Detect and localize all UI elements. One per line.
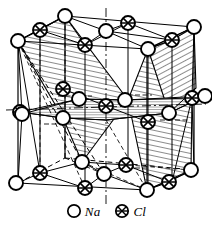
atom-na — [141, 42, 155, 56]
atom-na — [187, 20, 201, 34]
legend-entry-na: Na — [66, 203, 101, 219]
legend-entry-cl: Cl — [114, 203, 146, 219]
open-circle-icon — [66, 203, 82, 219]
atom-na — [58, 9, 72, 23]
atom-na — [118, 93, 132, 107]
crystal-structure-figure: Na Cl — [0, 0, 212, 226]
atom-cl — [165, 33, 179, 47]
atom-cl — [119, 158, 133, 172]
crystal-lattice-diagram — [0, 0, 212, 226]
atom-na — [184, 163, 198, 177]
atom-na — [56, 111, 70, 125]
atom-na — [99, 24, 113, 38]
atom-cl — [121, 16, 135, 30]
atom-cl — [56, 82, 70, 96]
legend-label-na: Na — [85, 205, 101, 218]
atom-na — [140, 183, 154, 197]
atom-na — [11, 34, 25, 48]
legend-label-cl: Cl — [133, 205, 146, 218]
atom-cl — [33, 166, 47, 180]
atom-cl — [78, 181, 92, 195]
atom-na — [162, 106, 176, 120]
atom-cl — [99, 99, 113, 113]
atom-cl — [141, 115, 155, 129]
atom-na — [75, 155, 89, 169]
crossed-circle-icon — [114, 203, 130, 219]
atom-cl — [185, 91, 199, 105]
atom-cl — [162, 175, 176, 189]
atom-na — [9, 176, 23, 190]
atom-cl — [78, 38, 92, 52]
atom-na — [97, 167, 111, 181]
atom-cl — [33, 23, 47, 37]
legend: Na Cl — [0, 198, 212, 224]
atom-na — [15, 107, 29, 121]
atom-na — [198, 89, 212, 103]
atom-na — [72, 92, 86, 106]
